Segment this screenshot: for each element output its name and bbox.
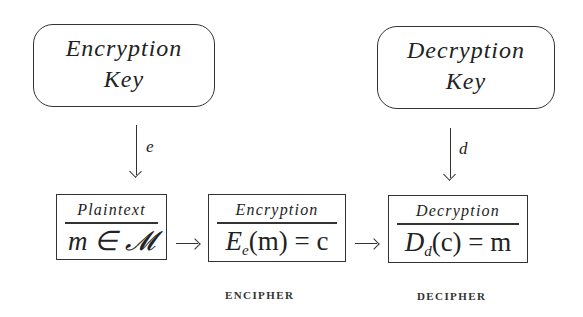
encryption-key-label-line2: Key (34, 64, 214, 95)
encryption-key-label-line1: Encryption (34, 33, 214, 64)
encryption-formula: Ee(m) = c (209, 224, 345, 267)
arrow-down-icon (136, 125, 137, 175)
decryption-key-label-line2: Key (378, 66, 554, 97)
decryption-key-box: Decryption Key (377, 26, 555, 109)
arrow-down-icon (450, 128, 451, 178)
encipher-caption: ENCIPHER (225, 289, 294, 301)
plaintext-formula: m ∈ 𝓜 (57, 224, 166, 258)
arrow-right-icon (176, 243, 198, 244)
decryption-formula: Dd(c) = m (389, 225, 527, 268)
decryption-formula-rest: (c) = m (432, 227, 512, 257)
encryption-box: Encryption Ee(m) = c (208, 194, 346, 262)
decryption-formula-main: D (405, 227, 425, 257)
encryption-key-arrow-label: e (146, 137, 154, 157)
decryption-key-label-line1: Decryption (378, 35, 554, 66)
plaintext-formula-text: m ∈ 𝓜 (68, 226, 155, 256)
decryption-title: Decryption (389, 202, 527, 220)
encryption-title: Encryption (209, 201, 345, 219)
decipher-caption: DECIPHER (417, 290, 486, 302)
arrow-right-icon (355, 243, 377, 244)
decryption-key-arrow-label: d (459, 139, 468, 159)
decryption-formula-sub: d (424, 243, 432, 259)
plaintext-box: Plaintext m ∈ 𝓜 (56, 194, 167, 260)
encryption-formula-main: E (226, 226, 243, 256)
encryption-formula-rest: (m) = c (249, 226, 329, 256)
decryption-box: Decryption Dd(c) = m (388, 195, 528, 263)
encryption-formula-sub: e (242, 242, 249, 258)
encryption-key-box: Encryption Key (33, 24, 215, 107)
plaintext-title: Plaintext (57, 201, 166, 219)
